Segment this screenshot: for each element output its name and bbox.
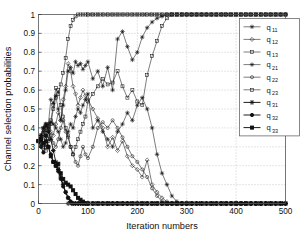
chart-svg: 00.10.20.30.40.50.60.70.80.9101002003004… (0, 0, 305, 247)
data-marker-star (86, 92, 91, 97)
legend-label-subscript: 32 (272, 115, 278, 121)
data-marker-star (68, 122, 73, 127)
data-marker-star (155, 152, 160, 157)
data-marker-star (78, 111, 83, 116)
data-marker-star (100, 84, 105, 89)
data-marker-star (44, 122, 49, 127)
data-marker-square (62, 177, 65, 180)
data-marker-circle (67, 196, 70, 199)
legend-label: q (267, 48, 271, 57)
y-tick-label: 0.3 (24, 143, 36, 152)
y-tick-label: 0.6 (24, 86, 36, 95)
legend-label-subscript: 33 (272, 128, 278, 134)
data-marker-star (165, 182, 170, 187)
data-marker-star (125, 44, 130, 49)
data-marker-square (74, 193, 77, 196)
data-marker-star (61, 145, 65, 150)
legend-label: q (267, 98, 271, 107)
data-marker-star (160, 171, 165, 176)
x-tick-label: 300 (180, 207, 194, 216)
data-marker-square (42, 141, 45, 144)
legend-label: q (267, 86, 271, 95)
data-marker-star (115, 129, 120, 134)
y-tick-label: 1 (30, 11, 35, 20)
y-axis-title: Channel selection probabilities (3, 46, 13, 171)
data-marker-square (57, 162, 60, 165)
data-marker-star (100, 129, 105, 134)
data-marker-star (96, 118, 101, 123)
data-marker-star (125, 111, 130, 116)
data-marker-star (115, 37, 120, 42)
data-marker-circle (64, 191, 67, 194)
legend-label: q (267, 35, 271, 44)
data-marker-square (39, 138, 42, 141)
x-tick-label: 0 (36, 207, 41, 216)
data-marker-star (110, 88, 115, 93)
legend-label: q (267, 123, 271, 132)
legend-label-subscript: 13 (272, 52, 278, 58)
x-tick-label: 500 (279, 207, 293, 216)
legend-label-subscript: 21 (272, 65, 278, 71)
data-marker-circle (42, 151, 45, 154)
legend-label: q (267, 73, 271, 82)
legend-label-subscript: 22 (272, 77, 278, 83)
data-marker-star (170, 194, 175, 199)
data-marker-circle (250, 113, 253, 116)
y-tick-label: 0.9 (24, 29, 36, 38)
data-marker-star (150, 126, 155, 130)
data-marker-star (83, 97, 88, 102)
data-marker-square (250, 126, 253, 129)
legend-label-subscript: 23 (272, 90, 278, 96)
data-marker-square (44, 134, 47, 137)
x-tick-label: 200 (130, 207, 144, 216)
y-tick-label: 0 (30, 200, 35, 209)
data-marker-star (73, 114, 78, 119)
data-marker-star (130, 58, 135, 63)
legend-label: q (267, 111, 271, 120)
x-axis-title: Iteration numbers (126, 221, 198, 231)
y-tick-label: 0.5 (24, 105, 36, 114)
data-marker-square (72, 189, 75, 192)
data-marker-circle (62, 185, 65, 188)
y-tick-label: 0.2 (24, 162, 36, 171)
data-marker-star (73, 60, 78, 65)
data-marker-star (140, 35, 145, 40)
legend-label: q (267, 60, 271, 69)
data-marker-star (91, 77, 96, 82)
data-marker-star (71, 71, 76, 76)
data-marker-square (52, 160, 55, 163)
data-marker-star (135, 50, 140, 55)
data-marker-star (96, 69, 101, 74)
data-marker-square (69, 185, 72, 188)
data-marker-square (47, 145, 50, 148)
data-marker-star (105, 65, 110, 70)
figure-container: 00.10.20.30.40.50.60.70.80.9101002003004… (0, 0, 305, 247)
legend[interactable]: q11q12q13q21q22q23q31q32q33 (240, 19, 300, 136)
data-marker-star (86, 60, 91, 65)
y-tick-label: 0.4 (24, 124, 36, 133)
data-marker-star (120, 122, 125, 127)
data-marker-star (76, 107, 81, 112)
y-tick-label: 0.7 (24, 67, 36, 76)
y-tick-label: 0.8 (24, 48, 36, 57)
data-marker-star (91, 126, 96, 130)
data-marker-star (63, 141, 68, 146)
data-marker-star (250, 100, 255, 105)
x-tick-label: 100 (81, 207, 95, 216)
data-marker-star (110, 145, 115, 150)
data-marker-square (49, 155, 52, 158)
x-tick-label: 400 (229, 207, 243, 216)
data-marker-star (54, 126, 59, 130)
legend-label-subscript: 12 (272, 39, 278, 45)
data-marker-star (130, 118, 135, 123)
data-marker-star (81, 103, 86, 108)
data-marker-star (71, 126, 76, 130)
data-marker-star (78, 61, 83, 66)
data-marker-star (105, 137, 110, 142)
data-marker-star (135, 103, 140, 108)
data-marker-star (66, 69, 71, 74)
y-tick-label: 0.1 (24, 181, 36, 190)
legend-label-subscript: 11 (272, 27, 278, 33)
legend-label: q (267, 23, 271, 32)
data-marker-star (120, 29, 125, 33)
